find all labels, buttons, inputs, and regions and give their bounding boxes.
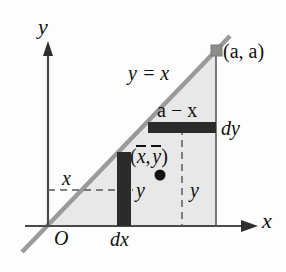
x-axis-label: x	[262, 210, 272, 232]
y-axis-arrowhead	[43, 41, 53, 56]
math-figure-canvas: y x O y = x (a, a) a − x dy dx x y y (x,…	[0, 0, 286, 272]
dx-label: dx	[110, 229, 129, 249]
horizontal-strip-height-label: y	[190, 180, 199, 200]
x-axis-arrowhead	[241, 220, 258, 232]
y-axis-label: y	[38, 16, 48, 38]
vertex-marker-square	[211, 45, 222, 56]
origin-label: O	[54, 228, 68, 248]
vertical-element-strip-dx	[117, 152, 131, 226]
centroid-dot	[155, 170, 166, 181]
vertical-strip-height-label: y	[136, 180, 145, 200]
dy-label: dy	[221, 118, 240, 138]
horizontal-element-strip-dy	[148, 122, 216, 133]
centroid-label: (x, y)	[130, 146, 168, 166]
horizontal-strip-length-label: a − x	[157, 100, 197, 120]
x-distance-label: x	[62, 168, 71, 188]
vertex-point-label: (a, a)	[223, 41, 264, 61]
line-equation-label: y = x	[128, 63, 169, 83]
